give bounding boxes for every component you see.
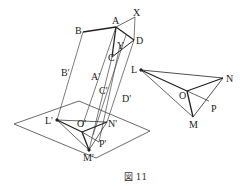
label-O: O: [179, 90, 186, 101]
label-D-prime: D': [122, 93, 131, 104]
label-M: M: [189, 119, 198, 130]
projection-plane: [14, 101, 150, 158]
label-B-prime: B': [61, 67, 70, 78]
geometry-diagram: A X B D Y C B' A' C' D' L' O' N' P' M' L…: [0, 0, 245, 188]
label-P-prime: P': [99, 138, 107, 149]
upper-figure: [83, 17, 135, 57]
label-C-prime: C': [99, 85, 108, 96]
label-X: X: [133, 7, 141, 18]
label-N-prime: N': [108, 118, 117, 129]
figure-caption: 図 11: [124, 172, 147, 182]
label-C: C: [108, 52, 115, 63]
label-D: D: [136, 35, 143, 46]
label-N: N: [226, 73, 233, 84]
label-L: L: [131, 64, 137, 75]
label-B: B: [75, 25, 82, 36]
label-A-prime: A': [91, 71, 100, 82]
label-M-prime: M': [83, 152, 94, 163]
label-A: A: [112, 15, 120, 26]
label-L-prime: L': [45, 115, 53, 126]
label-O-prime: O': [77, 118, 86, 129]
label-P: P: [211, 103, 217, 114]
label-Y: Y: [117, 40, 124, 51]
